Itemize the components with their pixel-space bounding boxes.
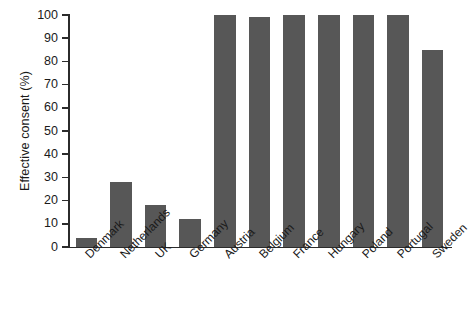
y-axis-tick-label: 40	[18, 148, 58, 161]
bar-portugal	[387, 15, 408, 247]
y-axis-tick	[62, 153, 69, 155]
bar-hungary	[318, 15, 339, 247]
y-axis-tick	[62, 200, 69, 202]
y-axis-tick	[62, 246, 69, 248]
y-axis-tick	[62, 107, 69, 109]
bar-belgium	[249, 17, 270, 247]
y-axis-tick	[62, 177, 69, 179]
y-axis-tick	[62, 130, 69, 132]
y-axis-tick	[62, 84, 69, 86]
y-axis-tick	[62, 37, 69, 39]
y-axis-tick-label: 30	[18, 171, 58, 184]
y-axis-tick-label: 60	[18, 101, 58, 114]
bar-sweden	[422, 50, 443, 247]
y-axis-tick-label: 0	[18, 241, 58, 254]
y-axis-tick-label: 50	[18, 125, 58, 138]
y-axis-tick	[62, 223, 69, 225]
y-axis-tick-label: 20	[18, 194, 58, 207]
y-axis-tick-label: 10	[18, 217, 58, 230]
y-axis-tick-label: 100	[18, 9, 58, 22]
bar-austria	[214, 15, 235, 247]
plot-area	[69, 15, 450, 247]
y-axis-tick-label: 70	[18, 78, 58, 91]
y-axis-tick	[62, 14, 69, 16]
y-axis-tick	[62, 61, 69, 63]
bar-france	[283, 15, 304, 247]
bar-poland	[353, 15, 374, 247]
y-axis-tick-label: 90	[18, 32, 58, 45]
y-axis-tick-label: 80	[18, 55, 58, 68]
